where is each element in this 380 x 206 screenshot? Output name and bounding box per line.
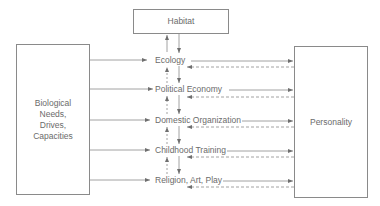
biological-needs-label-line-2: Needs, [40, 109, 67, 120]
diagram-canvas: Habitat Biological Needs, Drives, Capaci… [0, 0, 380, 206]
node-ecology: Ecology [154, 55, 186, 65]
biological-needs-label-line-3: Drives, [40, 120, 66, 131]
habitat-label: Habitat [168, 16, 195, 27]
biological-needs-box: Biological Needs, Drives, Capacities [16, 44, 90, 195]
personality-box: Personality [294, 46, 368, 198]
node-domestic-organization: Domestic Organization [154, 115, 242, 125]
node-political-economy: Political Economy [154, 84, 223, 94]
node-childhood-training: Childhood Training [154, 145, 227, 155]
habitat-box: Habitat [133, 9, 229, 34]
node-religion-art-play: Religion, Art, Play [154, 175, 223, 185]
personality-label: Personality [310, 117, 352, 128]
biological-needs-label-line-4: Capacities [33, 131, 73, 142]
biological-needs-label-line-1: Biological [35, 98, 71, 109]
